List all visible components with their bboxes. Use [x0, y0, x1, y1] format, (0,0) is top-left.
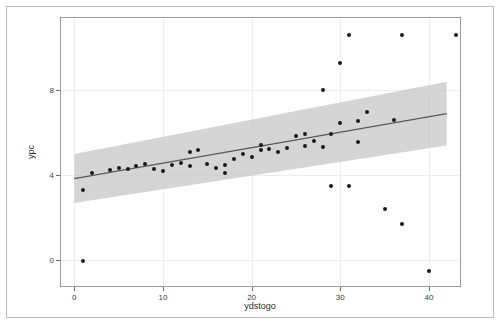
scatter-point [321, 88, 325, 92]
x-axis-tick [163, 287, 164, 291]
figure-container: ydstogo ypc 010203040048 [0, 0, 502, 326]
scatter-point [365, 110, 369, 114]
scatter-point [170, 163, 174, 167]
scatter-point [259, 143, 263, 147]
scatter-point [108, 168, 112, 172]
regression-line [61, 18, 460, 286]
x-axis-tick [429, 287, 430, 291]
scatter-point [188, 150, 192, 154]
scatter-point [285, 146, 289, 150]
scatter-point [117, 166, 121, 170]
scatter-point [259, 148, 263, 152]
scatter-point [223, 163, 227, 167]
y-axis-title: ypc [26, 145, 36, 159]
scatter-point [81, 259, 85, 263]
scatter-point [126, 167, 130, 171]
y-axis-tick-label: 0 [42, 256, 54, 265]
y-axis-tick-label: 4 [42, 171, 54, 180]
scatter-point [454, 33, 458, 37]
scatter-point [303, 144, 307, 148]
x-axis-tick [252, 287, 253, 291]
scatter-point [250, 155, 254, 159]
x-axis-tick-label: 40 [425, 293, 434, 302]
y-axis-tick-label: 8 [42, 86, 54, 95]
scatter-point [303, 132, 307, 136]
scatter-point [143, 162, 147, 166]
x-axis-tick-label: 30 [336, 293, 345, 302]
x-axis-tick-label: 0 [72, 293, 76, 302]
scatter-point [321, 145, 325, 149]
x-axis-tick [340, 287, 341, 291]
x-axis-title: ydstogo [244, 301, 276, 311]
x-axis-tick-label: 10 [159, 293, 168, 302]
plot-panel [60, 17, 461, 287]
x-axis-tick [74, 287, 75, 291]
scatter-point [179, 161, 183, 165]
scatter-point [294, 134, 298, 138]
scatter-point [188, 164, 192, 168]
scatter-point [392, 118, 396, 122]
x-axis-tick-label: 20 [247, 293, 256, 302]
scatter-point [241, 152, 245, 156]
